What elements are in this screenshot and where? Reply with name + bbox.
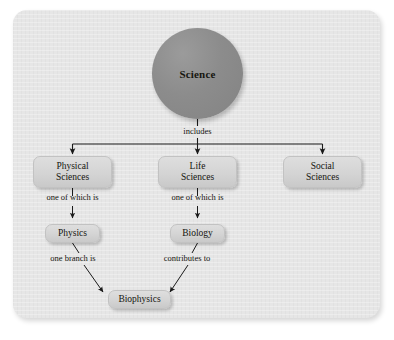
node-science-label: Science [179, 68, 215, 80]
node-life-sciences-line1: Life [190, 161, 206, 171]
node-life-sciences-label: Life Sciences [181, 161, 214, 183]
node-life-sciences-line2: Sciences [181, 172, 214, 182]
node-physical-sciences-line2: Sciences [56, 172, 89, 182]
node-biology[interactable]: Biology [170, 224, 225, 243]
node-social-sciences[interactable]: Social Sciences [283, 156, 362, 188]
node-biology-label: Biology [182, 228, 213, 239]
node-science[interactable]: Science [152, 28, 243, 119]
node-life-sciences[interactable]: Life Sciences [158, 156, 237, 188]
node-physics-label: Physics [58, 228, 87, 239]
edge-label-biology-to-biophysics: contributes to [144, 253, 230, 263]
node-biophysics[interactable]: Biophysics [108, 290, 171, 309]
node-physical-sciences-label: Physical Sciences [56, 161, 89, 183]
node-social-sciences-label: Social Sciences [306, 161, 339, 183]
node-physical-sciences[interactable]: Physical Sciences [33, 156, 112, 188]
edge-label-physics-to-biophysics: one branch is [32, 253, 114, 263]
node-physics[interactable]: Physics [45, 224, 100, 243]
edge-label-physical-to-physics: one of which is [30, 192, 115, 202]
edge-label-includes: includes [167, 126, 228, 136]
node-social-sciences-line1: Social [311, 161, 335, 171]
node-social-sciences-line2: Sciences [306, 172, 339, 182]
edge-label-life-to-biology: one of which is [155, 192, 240, 202]
diagram-canvas: Science includes Physical Sciences Life … [0, 0, 394, 340]
node-biophysics-label: Biophysics [118, 294, 160, 305]
node-physical-sciences-line1: Physical [56, 161, 88, 171]
